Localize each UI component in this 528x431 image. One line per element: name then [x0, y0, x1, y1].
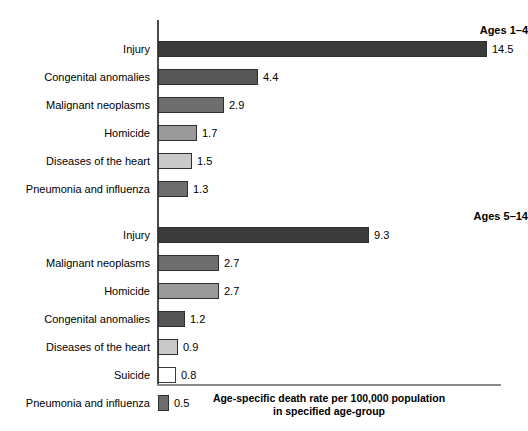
bar-value-label: 2.9 [224, 96, 244, 114]
bar-row: Congenital anomalies4.4 [0, 68, 528, 86]
bar-row: Suicide0.8 [0, 366, 528, 384]
bar-row: Malignant neoplasms2.7 [0, 254, 528, 272]
bar-value-label: 2.7 [219, 282, 239, 300]
bar [158, 255, 219, 271]
bar-value-label: 1.5 [192, 152, 212, 170]
bar-row: Diseases of the heart1.5 [0, 152, 528, 170]
bar-row: Homicide2.7 [0, 282, 528, 300]
bar [158, 69, 258, 85]
bar [158, 153, 192, 169]
category-label: Malignant neoplasms [0, 254, 150, 272]
bar [158, 227, 369, 243]
bar-row: Injury9.3 [0, 226, 528, 244]
bar [158, 339, 178, 355]
bar-value-label: 0.9 [178, 338, 198, 356]
bar-row: Pneumonia and influenza1.3 [0, 180, 528, 198]
bar [158, 125, 197, 141]
bar-value-label: 4.4 [258, 68, 278, 86]
category-label: Suicide [0, 366, 150, 384]
category-label: Pneumonia and influenza [0, 180, 150, 198]
bar-row: Homicide1.7 [0, 124, 528, 142]
bar-value-label: 1.3 [188, 180, 208, 198]
category-label: Congenital anomalies [0, 68, 150, 86]
bar [158, 283, 219, 299]
bar [158, 311, 185, 327]
axis-caption: Age-specific death rate per 100,000 popu… [157, 392, 501, 418]
bar [158, 367, 176, 383]
bar-value-label: 14.5 [487, 40, 513, 58]
bar-row: Injury14.5 [0, 40, 528, 58]
category-label: Homicide [0, 282, 150, 300]
bar-row: Malignant neoplasms2.9 [0, 96, 528, 114]
category-label: Pneumonia and influenza [0, 394, 150, 412]
category-label: Injury [0, 226, 150, 244]
group-header-2: Ages 5–14 [378, 210, 528, 222]
chart-canvas: Ages 1–4Injury14.5Congenital anomalies4.… [0, 0, 528, 431]
category-label: Homicide [0, 124, 150, 142]
category-label: Malignant neoplasms [0, 96, 150, 114]
axis-caption-line-2: in specified age-group [157, 405, 501, 418]
bar-value-label: 1.2 [185, 310, 205, 328]
bar-value-label: 2.7 [219, 254, 239, 272]
category-label: Diseases of the heart [0, 152, 150, 170]
category-label: Diseases of the heart [0, 338, 150, 356]
category-label: Injury [0, 40, 150, 58]
category-label: Congenital anomalies [0, 310, 150, 328]
bar-value-label: 9.3 [369, 226, 389, 244]
bar [158, 181, 188, 197]
bar-value-label: 0.8 [176, 366, 196, 384]
bar [158, 41, 487, 57]
axis-caption-line-1: Age-specific death rate per 100,000 popu… [157, 392, 501, 405]
bar-row: Congenital anomalies1.2 [0, 310, 528, 328]
bar [158, 97, 224, 113]
bar-value-label: 1.7 [197, 124, 217, 142]
group-header-1: Ages 1–4 [378, 24, 528, 36]
bar-row: Diseases of the heart0.9 [0, 338, 528, 356]
category-axis-line [157, 384, 501, 386]
